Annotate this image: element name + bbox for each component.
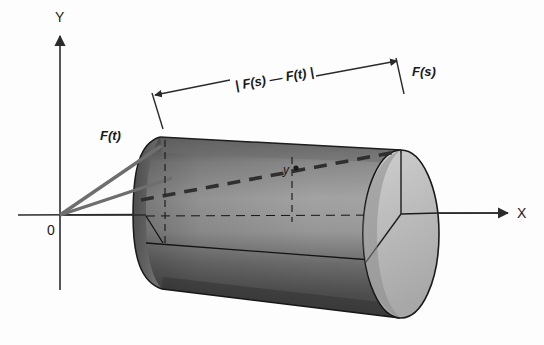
point-y-marker <box>293 165 298 170</box>
x-axis-label: X <box>517 205 527 221</box>
point-y-label: y <box>282 163 290 177</box>
vector-fs-label: F(s) <box>412 64 436 79</box>
cylinder-diagram: Y X 0 F(t) F(s) | F(s) — F(t) | y <box>0 0 544 345</box>
origin-label: 0 <box>47 222 55 238</box>
y-axis-label: Y <box>55 9 65 25</box>
vector-ft-label: F(t) <box>100 128 121 143</box>
figure-container: Y X 0 F(t) F(s) | F(s) — F(t) | y <box>0 0 544 345</box>
